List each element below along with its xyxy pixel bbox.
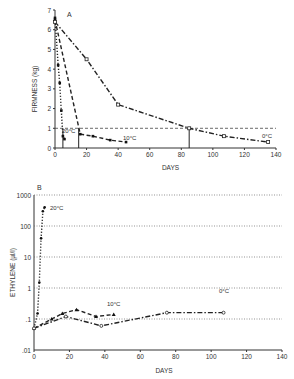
x-tick-label: 20 (83, 151, 91, 158)
y-tick-label: 5 (47, 46, 51, 53)
x-tick-label: 140 (277, 353, 288, 360)
panel-a-firmness-chart: 01234567020406080100120140DAYSFIRMNESS (… (31, 7, 282, 172)
data-point (40, 237, 43, 240)
x-tick-label: 120 (241, 353, 252, 360)
x-tick-label: 80 (172, 353, 180, 360)
data-point (63, 138, 66, 141)
x-tick-label: 40 (115, 151, 123, 158)
data-point (117, 103, 120, 106)
data-point (62, 135, 65, 138)
x-tick-label: 60 (137, 353, 145, 360)
x-tick-label: 20 (66, 353, 74, 360)
panel-letter: B (37, 184, 42, 191)
x-tick-label: 120 (239, 151, 250, 158)
y-tick-label: 10 (24, 254, 32, 261)
data-point (222, 135, 225, 138)
data-point (33, 327, 36, 330)
series-label: 20°C (62, 128, 76, 134)
data-point (165, 311, 168, 314)
series-line (34, 207, 45, 328)
series-label: 20°C (50, 205, 64, 211)
y-tick-label: .1 (26, 316, 32, 323)
y-tick-label: .01 (22, 347, 31, 354)
y-axis-label: FIRMNESS (kg) (31, 66, 39, 113)
x-axis-label: DAYS (162, 164, 180, 171)
x-tick-label: 100 (207, 151, 218, 158)
series-line (55, 20, 126, 142)
data-point (36, 312, 39, 315)
data-point (60, 109, 63, 112)
y-tick-label: 6 (47, 26, 51, 33)
data-point (92, 135, 95, 138)
figure-svg: 01234567020406080100120140DAYSFIRMNESS (… (0, 0, 294, 379)
series-line (55, 18, 64, 139)
data-point (54, 20, 57, 23)
y-tick-label: 4 (47, 66, 51, 73)
y-tick-label: 7 (47, 7, 51, 14)
x-tick-label: 0 (53, 151, 57, 158)
data-point (125, 141, 128, 144)
panel-b-ethylene-chart: .01.11101001000020406080100120140DAYSETH… (9, 184, 288, 374)
panel-letter: A (67, 11, 72, 18)
data-point (57, 64, 60, 67)
data-point (38, 281, 41, 284)
data-point (267, 141, 270, 144)
x-tick-label: 0 (32, 353, 36, 360)
data-point (79, 133, 82, 136)
x-tick-label: 60 (146, 151, 154, 158)
data-point (112, 312, 116, 316)
x-tick-label: 140 (271, 151, 282, 158)
data-point (75, 308, 79, 312)
series-line (55, 22, 268, 142)
data-point (43, 206, 46, 209)
data-point (85, 58, 88, 61)
x-tick-label: 80 (178, 151, 186, 158)
y-tick-label: 1000 (17, 192, 32, 199)
series-label: 10°C (107, 301, 121, 307)
data-point (58, 82, 61, 85)
y-tick-label: 1 (47, 125, 51, 132)
data-point (109, 139, 112, 142)
figure: 01234567020406080100120140DAYSFIRMNESS (… (0, 0, 294, 379)
y-axis-label: ETHYLENE (µl/l) (9, 248, 17, 297)
data-point (64, 315, 67, 318)
series-label: 0°C (262, 133, 273, 139)
x-axis-label: DAYS (155, 367, 173, 374)
x-tick-label: 40 (101, 353, 109, 360)
series-label: 0°C (219, 288, 230, 294)
x-tick-label: 100 (206, 353, 217, 360)
data-point (188, 127, 191, 130)
y-tick-label: 2 (47, 105, 51, 112)
data-point (42, 210, 45, 213)
y-tick-label: 1 (27, 285, 31, 292)
y-tick-label: 0 (47, 145, 51, 152)
data-point (100, 324, 103, 327)
series-label: 10°C (123, 135, 137, 141)
data-point (222, 311, 225, 314)
y-tick-label: 100 (20, 223, 31, 230)
y-tick-label: 3 (47, 85, 51, 92)
